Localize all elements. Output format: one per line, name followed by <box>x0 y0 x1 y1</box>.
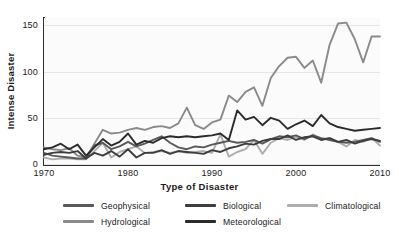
x-tick-label: 1990 <box>202 168 223 178</box>
legend-item[interactable]: Biological <box>185 199 281 212</box>
legend-swatch-icon <box>185 204 216 207</box>
legend-label: Hydrological <box>101 217 150 227</box>
legend-swatch-icon <box>63 204 94 207</box>
series-lines <box>44 18 380 164</box>
y-tick-label: 100 <box>0 67 38 77</box>
legend-swatch-icon <box>63 220 94 223</box>
legend-swatch-icon <box>287 204 318 207</box>
series-line-meteorological <box>44 110 380 155</box>
plot-area <box>44 18 380 164</box>
y-tick-label: 0 <box>0 159 38 169</box>
chart-figure: Intense Disaster 050100150 1970198019902… <box>0 0 399 243</box>
gridline <box>44 164 380 165</box>
legend-column-1: GeophysicalHydrological <box>63 199 150 231</box>
legend-label: Meteorological <box>223 217 281 227</box>
legend-item[interactable]: Climatological <box>287 199 381 212</box>
legend-item[interactable]: Hydrological <box>63 215 150 228</box>
x-tick-label: 2000 <box>286 168 307 178</box>
legend-column-3: Climatological <box>287 199 381 215</box>
legend-swatch-icon <box>185 220 216 223</box>
legend-label: Biological <box>223 201 261 211</box>
x-tick-label: 1980 <box>118 168 139 178</box>
legend-label: Climatological <box>325 201 381 211</box>
legend-column-2: BiologicalMeteorological <box>185 199 281 231</box>
chart-legend: GeophysicalHydrological BiologicalMeteor… <box>0 199 399 239</box>
y-tick-label: 50 <box>0 113 38 123</box>
x-axis-title: Type of Disaster <box>0 181 399 192</box>
legend-item[interactable]: Geophysical <box>63 199 150 212</box>
legend-item[interactable]: Meteorological <box>185 215 281 228</box>
x-tick-label: 1970 <box>34 168 55 178</box>
y-tick-label: 150 <box>0 20 38 30</box>
x-tick-label: 2010 <box>370 168 391 178</box>
legend-label: Geophysical <box>101 201 150 211</box>
